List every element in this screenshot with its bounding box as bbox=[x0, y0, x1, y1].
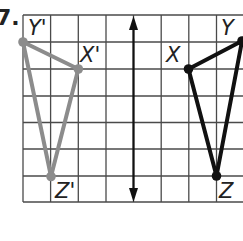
preimage-triangle-xyz bbox=[184, 36, 243, 181]
line-of-reflection bbox=[129, 16, 138, 202]
vertex-label: Y bbox=[221, 16, 236, 40]
triangle-outline bbox=[189, 41, 243, 176]
arrow-down-icon bbox=[129, 188, 138, 202]
vertex-label: X bbox=[165, 43, 181, 67]
problem-number: 7. bbox=[0, 5, 20, 30]
vertex-point bbox=[184, 64, 194, 74]
vertex-point bbox=[18, 37, 28, 47]
reflection-diagram: 7. Y'X'Z'XYZ bbox=[0, 0, 243, 241]
vertex-label: Z bbox=[218, 179, 234, 203]
vertex-labels: Y'X'Z'XYZ bbox=[28, 16, 236, 203]
vertex-label: X' bbox=[79, 43, 100, 67]
vertex-label: Y' bbox=[28, 16, 47, 40]
arrow-up-icon bbox=[129, 16, 138, 30]
vertex-label: Z' bbox=[54, 179, 75, 203]
